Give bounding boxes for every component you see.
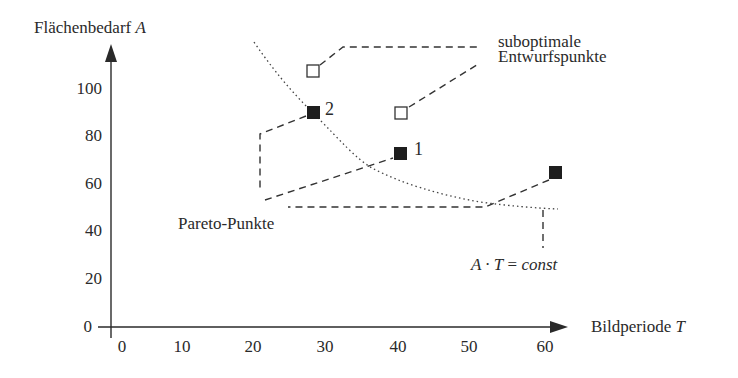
x-axis-title-text: Bildperiode bbox=[591, 317, 671, 336]
y-tick: 40 bbox=[62, 222, 102, 239]
x-tick: 30 bbox=[310, 338, 340, 355]
y-axis-title-text: Flächenbedarf bbox=[34, 18, 131, 37]
curve-equation: A · T = const bbox=[471, 256, 557, 273]
suboptimal-label: suboptimale Entwurfspunkte bbox=[498, 34, 607, 64]
point-1-label: 1 bbox=[414, 140, 423, 158]
x-axis-title: Bildperiode T bbox=[591, 318, 685, 335]
pareto-point-1 bbox=[394, 147, 407, 160]
pareto-curve bbox=[254, 42, 558, 209]
y-axis-title: Flächenbedarf A bbox=[34, 19, 146, 36]
curve-equation-eq: = bbox=[508, 255, 518, 274]
pareto-label: Pareto-Punkte bbox=[178, 215, 274, 232]
pareto-point bbox=[549, 166, 562, 179]
x-axis-variable: T bbox=[676, 317, 685, 336]
curve-equation-rhs: const bbox=[521, 255, 557, 274]
x-tick: 60 bbox=[530, 338, 560, 355]
y-tick: 20 bbox=[62, 270, 102, 287]
y-tick: 0 bbox=[52, 318, 92, 335]
suboptimal-leaders bbox=[320, 47, 480, 107]
y-axis bbox=[105, 44, 117, 338]
x-tick: 50 bbox=[454, 338, 484, 355]
x-tick: 10 bbox=[167, 338, 197, 355]
point-2-label: 2 bbox=[325, 100, 334, 118]
suboptimal-label-line2: Entwurfspunkte bbox=[498, 49, 607, 64]
x-tick: 40 bbox=[383, 338, 413, 355]
x-tick: 0 bbox=[107, 338, 137, 355]
pareto-leaders bbox=[260, 116, 549, 248]
x-axis-arrow-icon bbox=[550, 321, 568, 333]
curve-equation-lhs: A · T bbox=[471, 255, 503, 274]
x-axis bbox=[98, 321, 568, 333]
x-tick: 20 bbox=[238, 338, 268, 355]
pareto-point-2 bbox=[307, 106, 320, 119]
y-tick: 60 bbox=[62, 175, 102, 192]
y-tick: 100 bbox=[62, 80, 102, 97]
suboptimal-point bbox=[307, 65, 319, 77]
y-axis-arrow-icon bbox=[105, 44, 117, 62]
suboptimal-point bbox=[395, 107, 407, 119]
y-axis-variable: A bbox=[135, 18, 145, 37]
y-tick: 80 bbox=[62, 127, 102, 144]
